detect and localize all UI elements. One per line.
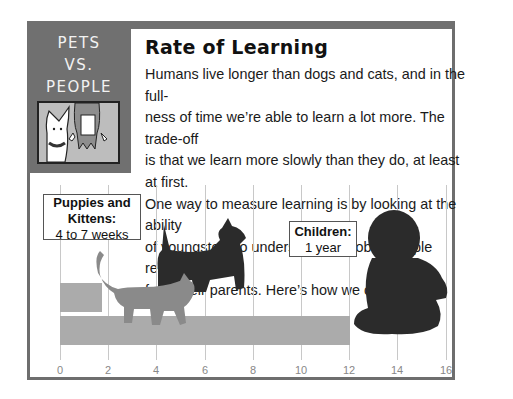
x-tick-label: 2 — [98, 364, 118, 376]
cat-silhouette-icon — [94, 247, 204, 337]
pets-label-title-2: Kittens: — [44, 211, 140, 227]
x-tick-label: 16 — [436, 364, 456, 376]
baby-silhouette-icon — [352, 208, 452, 338]
x-tick-label: 8 — [243, 364, 263, 376]
body-line: is that we learn more slowly than they d… — [145, 150, 465, 193]
x-tick-label: 14 — [387, 364, 407, 376]
pets-label-box: Puppies and Kittens: 4 to 7 weeks — [43, 194, 141, 240]
x-tick-label: 4 — [146, 364, 166, 376]
x-tick-label: 0 — [50, 364, 70, 376]
children-label-title: Children: — [290, 224, 356, 240]
pets-label-title-1: Puppies and — [44, 195, 140, 211]
dog-and-child-illustration-icon — [37, 101, 120, 164]
pets-label-value: 4 to 7 weeks — [56, 227, 129, 242]
article-title: Rate of Learning — [145, 36, 328, 58]
sidebar-title-line-3: PEOPLE — [27, 77, 131, 97]
x-tick-label: 6 — [195, 364, 215, 376]
children-label-box: Children: 1 year — [289, 221, 357, 257]
sidebar-title-line-2: VS. — [27, 55, 131, 75]
body-line: Humans live longer than dogs and cats, a… — [145, 64, 465, 107]
x-tick-label: 12 — [339, 364, 359, 376]
children-label-value: 1 year — [305, 240, 341, 255]
body-line: ness of time we’re able to learn a lot m… — [145, 107, 465, 150]
sidebar-title-line-1: PETS — [27, 33, 131, 53]
x-tick-label: 10 — [291, 364, 311, 376]
